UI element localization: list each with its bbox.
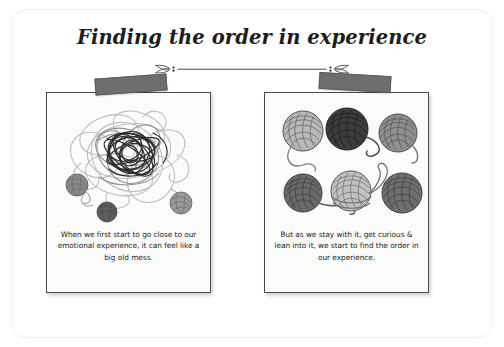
- yarn-ball-small-right-icon: [170, 192, 192, 214]
- page-title: Finding the order in experience: [0, 26, 504, 49]
- card-caption-left: When we first start to go close to our e…: [54, 229, 203, 263]
- leaf-flourish-right-icon: [334, 65, 348, 73]
- card-ordered-yarn: But as we stay with it, get curious & le…: [264, 92, 429, 293]
- yarn-ball-bottom-right-icon: [382, 173, 422, 213]
- card-tangled-yarn: When we first start to go close to our e…: [46, 92, 211, 293]
- yarn-ball-top-right-icon: [379, 114, 418, 163]
- poster: Finding the order in experience: [0, 0, 504, 347]
- tangled-yarn-illustration: [47, 93, 210, 225]
- yarn-ball-bottom-center-icon: [331, 163, 387, 211]
- ordered-yarn-balls-illustration: [265, 93, 428, 225]
- leaf-flourish-left-icon: [156, 65, 170, 73]
- tape-strip-right: [319, 72, 392, 93]
- card-caption-right: But as we stay with it, get curious & le…: [272, 229, 421, 263]
- yarn-ball-small-bottom-icon: [97, 202, 117, 222]
- yarn-ball-top-center-icon: [326, 108, 379, 156]
- yarn-ball-top-left-icon: [283, 111, 323, 171]
- yarn-ball-small-left-icon: [66, 174, 90, 203]
